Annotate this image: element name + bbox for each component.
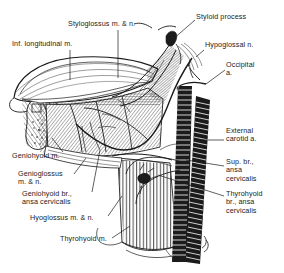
label-geniohyoid-m: Geniohyoid m. [12,152,60,160]
anatomical-figure: Styloglossus m. & n.Styloid processInf. … [0,0,284,273]
label-thyrohyoid-m: Thyrohyoid m. [60,235,107,243]
label-line: Hyoglossus m. & n. [30,214,94,222]
structure-thyrohyoid-muscle [112,154,182,258]
label-sup-br-ansa-cervicalis: Sup. br.,ansacervicalis [226,158,257,183]
label-styloid-process: Styloid process [196,13,246,21]
label-geniohyoid-br-ansa-cervicalis: Geniohyoid br.,ansa cervicalis [22,190,72,207]
label-line: m. & n. [18,178,63,186]
label-line: Styloid process [196,13,246,21]
label-inf-longitudinal: Inf. longitudinal m. [12,40,72,48]
label-occipital-a: Occipitala. [226,61,254,78]
label-line: Hypoglossal n. [205,41,254,49]
label-genioglossus: Genioglossusm. & n. [18,170,63,187]
label-line: cervicalis [226,207,263,215]
label-line: Styloglossus m. & n. [68,20,135,28]
label-line: Geniohyoid m. [12,152,60,160]
label-line: cervicalis [226,175,257,183]
leader-styloid-process [172,20,195,40]
label-line: carotid a. [226,135,257,143]
label-thyrohyoid-br-ansa-cervicalis: Thyrohyoidbr., ansacervicalis [226,190,263,215]
label-hyoglossus: Hyoglossus m. & n. [30,214,94,222]
label-hypoglossal-n: Hypoglossal n. [205,41,254,49]
leader-hypoglossal-n [196,50,204,57]
label-line: Inf. longitudinal m. [12,40,72,48]
label-external-carotid-a: Externalcarotid a. [226,127,257,144]
label-line: Thyrohyoid m. [60,235,107,243]
leader-occipital-a [206,70,225,84]
label-styloglossus: Styloglossus m. & n. [68,20,135,28]
label-line: ansa cervicalis [22,198,72,206]
label-line: a. [226,69,254,77]
